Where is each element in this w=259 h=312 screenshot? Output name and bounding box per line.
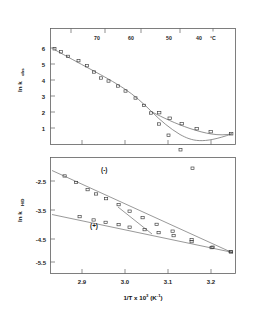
minus-series-fit-line xyxy=(52,171,233,254)
top-axis-tick-0: 70 xyxy=(94,35,100,41)
upper-bottom-ticks xyxy=(82,140,211,145)
x-axis-tick-2: 3.1 xyxy=(164,279,173,285)
minus-series-label: (-) xyxy=(101,166,107,174)
plus-series-label: (+) xyxy=(90,222,98,230)
lower-y-axis-label-sub: H/D xyxy=(20,199,25,206)
top-axis-ticks xyxy=(71,29,213,34)
upper-y-tick-4: 4 xyxy=(42,78,46,84)
x-axis-tick-0: 2.9 xyxy=(78,279,87,285)
lower-y-ticks xyxy=(51,181,56,262)
lower-y-tick-2: -4.5 xyxy=(36,237,47,243)
upper-y-ticks xyxy=(51,48,56,128)
svg-text:1/T x 103 (K-1): 1/T x 103 (K-1) xyxy=(123,293,162,301)
lower-x-ticks xyxy=(82,269,211,274)
plus-series-fit-line xyxy=(52,215,233,253)
lower-panel: -2.5 -3.5 -4.5 -5.5 2.9 3.0 3.1 3.2 ln k… xyxy=(16,158,236,286)
x-axis-title-pre: 1/T x 10 xyxy=(123,294,146,301)
upper-y-tick-5: 5 xyxy=(42,62,46,68)
upper-y-tick-2: 2 xyxy=(42,110,46,116)
lower-y-tick-1: -3.5 xyxy=(36,208,47,214)
upper-y-tick-3: 3 xyxy=(42,94,46,100)
top-axis-unit-label: °C xyxy=(210,35,216,41)
upper-fit-curve xyxy=(55,50,233,141)
x-axis-tick-1: 3.0 xyxy=(121,279,130,285)
figure-container: 70 60 50 40 °C 6 5 4 3 2 1 xyxy=(0,0,259,312)
upper-y-tick-1: 1 xyxy=(42,126,46,132)
upper-y-axis-label: ln k obs xyxy=(16,68,25,92)
x-axis-title: 1/T x 103 (K-1) xyxy=(123,293,162,301)
upper-y-tick-6: 6 xyxy=(42,46,46,52)
upper-y-axis-label-main: ln k xyxy=(16,81,23,92)
upper-panel: 70 60 50 40 °C 6 5 4 3 2 1 xyxy=(16,29,236,170)
minus-series-steep-branch xyxy=(118,207,152,234)
x-axis-tick-3: 3.2 xyxy=(207,279,216,285)
top-axis-tick-2: 50 xyxy=(166,35,172,41)
upper-data-points-right xyxy=(158,112,233,136)
upper-panel-frame xyxy=(51,29,236,145)
lower-y-tick-3: -5.5 xyxy=(36,260,47,266)
lower-y-axis-label: ln k H/D xyxy=(16,199,25,222)
arrhenius-plot-svg: 70 60 50 40 °C 6 5 4 3 2 1 xyxy=(0,0,259,312)
top-axis-tick-1: 60 xyxy=(128,35,134,41)
upper-y-axis-label-sub: obs xyxy=(20,68,25,76)
top-axis-tick-3: 40 xyxy=(196,35,202,41)
x-axis-title-close: ) xyxy=(161,294,163,301)
lower-y-tick-0: -2.5 xyxy=(36,179,47,185)
upper-data-points xyxy=(53,48,194,170)
lower-y-axis-label-main: ln k xyxy=(16,211,23,222)
